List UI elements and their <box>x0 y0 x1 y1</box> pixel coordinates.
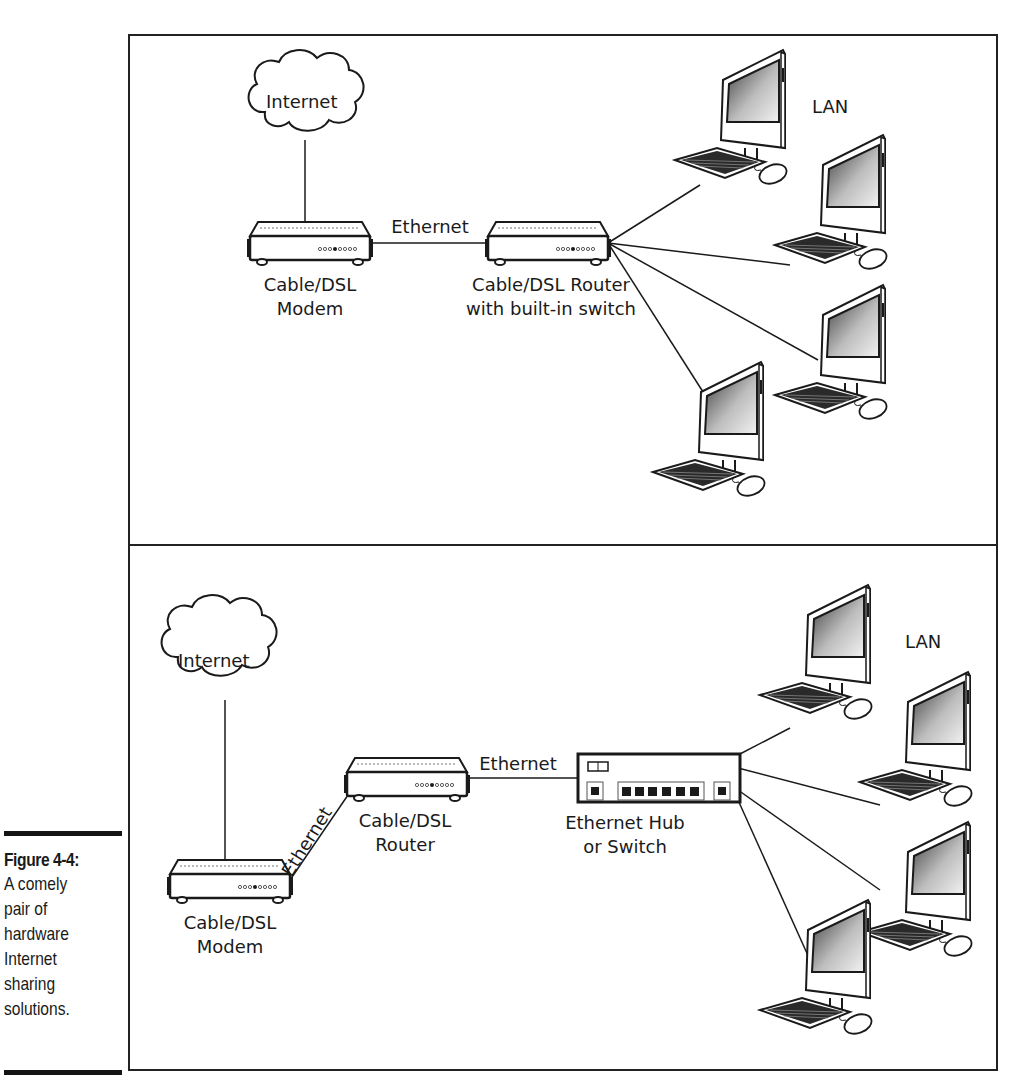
modem-label: Cable/DSL <box>264 274 356 295</box>
modem-label: Cable/DSL <box>184 912 276 933</box>
modem-label: Modem <box>277 298 344 319</box>
router-label: with built-in switch <box>466 298 636 319</box>
computer-icon <box>860 672 974 809</box>
computer-icon <box>775 135 889 272</box>
bottom-panel: Internet Cable/DSL Modem Ethernet Cable/… <box>162 585 975 1037</box>
ethernet-link-label: Ethernet <box>479 753 557 774</box>
ethernet-link-label: Ethernet <box>277 803 336 880</box>
ethernet-link-label: Ethernet <box>391 216 469 237</box>
router-icon <box>344 758 470 801</box>
computer-icon <box>675 50 789 187</box>
computer-icon <box>653 362 767 499</box>
modem-label: Modem <box>197 936 264 957</box>
computer-icon <box>860 822 974 959</box>
router-switch-icon <box>485 222 611 265</box>
cloud-label: Internet <box>178 650 249 671</box>
modem-icon <box>247 222 373 265</box>
network-diagram: Internet Cable/DSL Modem Ethernet Cable/… <box>0 0 1020 1088</box>
computer-icon <box>760 900 874 1037</box>
top-panel: Internet Cable/DSL Modem Ethernet Cable/… <box>247 50 889 499</box>
computer-icon <box>775 285 889 422</box>
modem-icon <box>167 860 293 903</box>
lan-label: LAN <box>905 631 941 652</box>
hub-label: or Switch <box>583 836 667 857</box>
router-label: Cable/DSL <box>359 810 451 831</box>
router-label: Router <box>375 834 435 855</box>
router-label: Cable/DSL Router <box>472 274 630 295</box>
lan-label: LAN <box>812 96 848 117</box>
hub-label: Ethernet Hub <box>565 812 685 833</box>
computer-icon <box>760 585 874 722</box>
cloud-label: Internet <box>266 91 337 112</box>
hub-switch-icon <box>578 754 740 802</box>
